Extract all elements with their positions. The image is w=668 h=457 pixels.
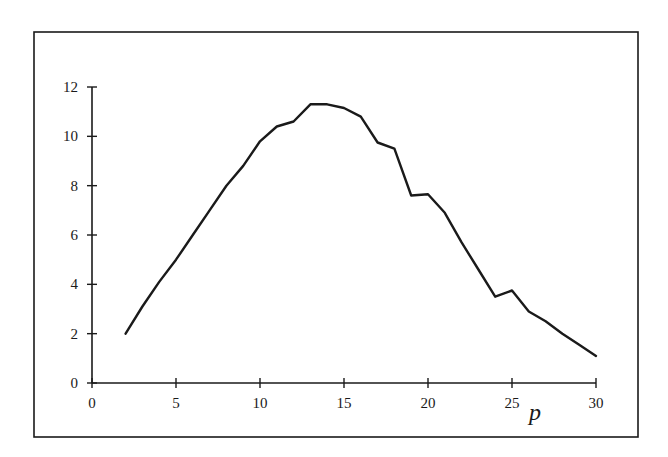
x-tick-label: 5 [172, 395, 180, 411]
y-tick-label: 4 [71, 276, 79, 292]
y-tick-label: 2 [71, 326, 79, 342]
x-tick-label: 15 [337, 395, 352, 411]
x-tick-label: 0 [88, 395, 96, 411]
chart-frame [34, 32, 638, 437]
y-tick-label: 12 [63, 79, 78, 95]
line-chart: 051015202530 024681012 p [0, 0, 668, 457]
y-tick-label: 10 [63, 128, 78, 144]
x-tick-label: 25 [505, 395, 520, 411]
x-axis-label: p [527, 399, 541, 425]
y-tick-label: 6 [71, 227, 79, 243]
x-tick-label: 20 [421, 395, 436, 411]
data-line [126, 104, 596, 356]
y-tick-label: 0 [71, 375, 79, 391]
axes [92, 87, 596, 383]
x-tick-label: 10 [253, 395, 268, 411]
data-series [126, 104, 596, 356]
x-tick-label: 30 [589, 395, 604, 411]
y-tick-label: 8 [71, 178, 79, 194]
